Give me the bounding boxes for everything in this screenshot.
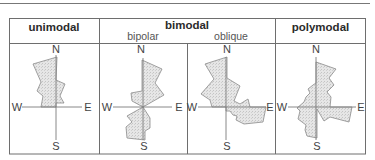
rose-oblique: N S W E bbox=[187, 43, 274, 152]
label-west: W bbox=[187, 101, 198, 113]
label-east: E bbox=[357, 101, 364, 113]
rose-petals-polymodal bbox=[297, 62, 352, 138]
rose-petals-unimodal bbox=[33, 57, 65, 107]
label-south: S bbox=[52, 140, 59, 152]
rose-polymodal: N S W E bbox=[277, 43, 365, 152]
rose-bipolar: N S W E bbox=[102, 43, 183, 152]
label-south: S bbox=[140, 140, 147, 152]
rose-petals-bipolar-south bbox=[126, 107, 150, 140]
rose-unimodal: N S W E bbox=[12, 43, 92, 152]
label-east: E bbox=[84, 101, 91, 113]
label-east: E bbox=[266, 101, 273, 113]
label-east: E bbox=[175, 101, 182, 113]
label-south: S bbox=[313, 140, 320, 152]
rose-diagram-figure: unimodal bimodal bipolar oblique polymod… bbox=[0, 0, 375, 160]
label-north: N bbox=[223, 43, 231, 55]
diagram-canvas: N S W E N S W E N S W E bbox=[0, 0, 375, 160]
label-north: N bbox=[137, 43, 145, 55]
label-west: W bbox=[277, 101, 288, 113]
rose-petals-oblique bbox=[201, 57, 266, 124]
label-south: S bbox=[223, 140, 230, 152]
label-north: N bbox=[312, 43, 320, 55]
rose-petals-bipolar-north bbox=[131, 60, 164, 107]
label-west: W bbox=[12, 101, 23, 113]
label-west: W bbox=[102, 101, 113, 113]
label-north: N bbox=[52, 43, 60, 55]
